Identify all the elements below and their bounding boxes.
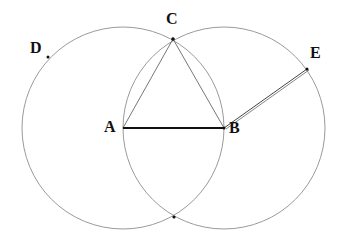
label-a: A bbox=[104, 119, 116, 135]
point-c bbox=[171, 37, 175, 41]
label-c: C bbox=[166, 11, 178, 27]
point-d bbox=[47, 56, 50, 59]
point-b bbox=[223, 127, 226, 130]
construction-diagram: C D E A B bbox=[0, 0, 343, 241]
label-d: D bbox=[30, 40, 42, 56]
segment-bc bbox=[173, 39, 224, 128]
point-bottom-intersection bbox=[172, 215, 175, 218]
label-b: B bbox=[229, 120, 240, 136]
segment-ac bbox=[123, 39, 173, 128]
point-e bbox=[306, 68, 309, 71]
label-e: E bbox=[310, 45, 321, 61]
diagram-svg bbox=[0, 0, 343, 241]
